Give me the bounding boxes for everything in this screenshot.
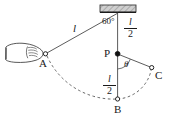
hand-holding-bob: [6, 43, 43, 62]
fraction-numerator: l: [124, 17, 137, 28]
segment-P-to-C: [118, 54, 152, 68]
point-label-B: B: [114, 104, 121, 115]
point-label-P: P: [104, 48, 110, 59]
physics-pendulum-figure: A B C P l 60° θ l 2 l 2: [0, 0, 172, 119]
arc-A-to-B-to-C: [47, 56, 152, 99]
point-marker-P: [115, 51, 120, 56]
diagram-canvas: [0, 0, 172, 119]
point-label-C: C: [155, 70, 162, 81]
angle-label-60: 60°: [102, 17, 115, 26]
fraction-numerator: l: [103, 74, 116, 85]
length-label-l: l: [73, 23, 76, 34]
angle-label-theta: θ: [124, 60, 128, 69]
point-marker-A: [43, 52, 47, 56]
fraction-denominator: 2: [124, 29, 137, 40]
point-marker-C: [150, 66, 154, 70]
point-label-A: A: [39, 58, 47, 69]
point-marker-B: [116, 97, 120, 101]
fraction-denominator: 2: [103, 86, 116, 97]
ceiling-support: [100, 5, 136, 12]
length-label-half-lower: l 2: [103, 74, 116, 96]
length-label-half-upper: l 2: [124, 17, 137, 39]
